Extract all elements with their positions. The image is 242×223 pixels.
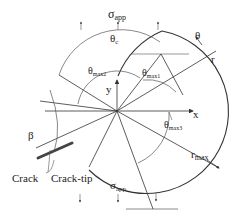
sigma-bottom-arrows [80, 193, 156, 202]
crack-extension-line [36, 111, 117, 148]
r-line [117, 51, 216, 111]
r-label: r [211, 53, 215, 65]
crack-tip-label: Crack-tip [51, 172, 93, 184]
crack-label: Crack [12, 172, 39, 184]
theta-max2-label: θmax2 [88, 65, 106, 77]
crack-tip-diagram: σapp σapp θc θmax2 θmax1 θmax3 θ r rmax … [0, 0, 242, 223]
theta-max1-arc [143, 80, 176, 92]
theta-max1-label: θmax1 [142, 67, 160, 79]
theta-max1-line [117, 54, 161, 111]
sigma-app-top-label: σapp [108, 7, 126, 22]
rmax-label: rmax [191, 148, 208, 162]
rmax-circle [89, 31, 228, 194]
y-axis-label: y [106, 83, 112, 95]
tangent-drop-line [161, 54, 183, 95]
sigma-top-arrows [81, 22, 158, 30]
beta-label: β [28, 129, 34, 141]
theta-max3-label: θmax3 [164, 119, 182, 131]
crack-tip-line [89, 111, 117, 167]
sigma-app-bottom-label: σapp [110, 179, 127, 193]
bottom-point-line [117, 111, 153, 209]
crack [38, 143, 72, 158]
beta-arc [50, 90, 58, 152]
theta-label: θ [195, 29, 200, 41]
theta-c-label: θc [110, 32, 118, 46]
x-axis-label: x [193, 108, 199, 120]
